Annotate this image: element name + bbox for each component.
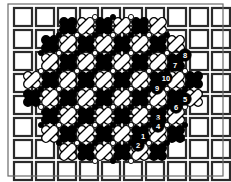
node-dark — [110, 14, 115, 19]
node-dark — [56, 140, 61, 145]
node-light — [92, 14, 97, 19]
label-text: 8 — [183, 51, 187, 60]
node-dark — [128, 32, 133, 37]
node-light — [38, 104, 43, 109]
node-light — [110, 104, 115, 109]
atom-label-8: 8 — [179, 49, 191, 61]
node-light — [146, 32, 151, 37]
node-light — [146, 104, 151, 109]
node-light — [128, 14, 133, 19]
node-dark — [146, 50, 151, 55]
label-text: 10 — [162, 74, 170, 83]
node-dark — [56, 32, 61, 37]
node-light — [74, 104, 79, 109]
node-light — [92, 86, 97, 91]
atom-label-2: 2 — [132, 139, 144, 151]
node-light — [128, 86, 133, 91]
node-dark — [110, 50, 115, 55]
node-light — [182, 68, 187, 73]
node-dark — [146, 122, 151, 127]
node-light — [92, 122, 97, 127]
node-dark — [92, 140, 97, 145]
node-dark — [128, 104, 133, 109]
node-light — [110, 140, 115, 145]
node-light — [56, 122, 61, 127]
node-dark — [92, 68, 97, 73]
atom-label-4: 4 — [152, 120, 164, 132]
node-dark — [74, 86, 79, 91]
node-light — [38, 68, 43, 73]
node-dark — [38, 86, 43, 91]
node-dark — [182, 86, 187, 91]
label-text: 1 — [141, 132, 145, 141]
node-dark — [92, 32, 97, 37]
node-light — [146, 68, 151, 73]
node-dark — [164, 104, 169, 109]
node-light — [74, 140, 79, 145]
diagram-canvas: 87109563412 — [0, 0, 231, 182]
node-dark — [92, 104, 97, 109]
node-light — [128, 50, 133, 55]
node-light — [74, 32, 79, 37]
node-dark — [164, 32, 169, 37]
node-dark — [74, 50, 79, 55]
label-text: 6 — [174, 103, 178, 112]
node-light — [74, 68, 79, 73]
atom-label-7: 7 — [169, 59, 181, 71]
node-dark — [74, 122, 79, 127]
node-light — [110, 68, 115, 73]
node-dark — [164, 140, 169, 145]
node-dark — [110, 158, 115, 163]
node-dark — [182, 122, 187, 127]
lattice-figure: 87109563412 — [0, 0, 231, 182]
node-light — [56, 86, 61, 91]
label-text: 7 — [173, 61, 177, 70]
node-light — [110, 32, 115, 37]
node-light — [164, 86, 169, 91]
atom-label-9: 9 — [151, 82, 163, 94]
node-dark — [110, 122, 115, 127]
label-text: 9 — [155, 84, 159, 93]
lattice-svg: 87109563412 — [0, 0, 231, 182]
node-dark — [38, 122, 43, 127]
node-dark — [56, 104, 61, 109]
atom-label-6: 6 — [170, 101, 182, 113]
label-text: 2 — [136, 141, 140, 150]
node-light — [92, 158, 97, 163]
node-light — [128, 158, 133, 163]
node-dark — [110, 86, 115, 91]
node-light — [164, 122, 169, 127]
label-text: 5 — [183, 95, 187, 104]
node-light — [164, 50, 169, 55]
node-light — [128, 122, 133, 127]
node-dark — [56, 68, 61, 73]
atom-label-10: 10 — [160, 72, 172, 84]
node-dark — [38, 50, 43, 55]
node-layer — [38, 14, 187, 163]
node-light — [56, 50, 61, 55]
node-light — [92, 50, 97, 55]
node-dark — [128, 68, 133, 73]
node-light — [146, 140, 151, 145]
